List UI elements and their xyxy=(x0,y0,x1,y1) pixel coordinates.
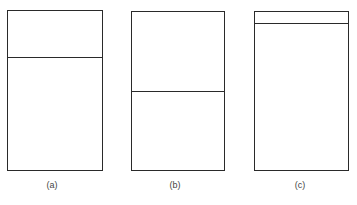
panel-c-divider xyxy=(255,23,348,24)
panel-b xyxy=(131,11,225,171)
panel-c xyxy=(254,11,349,171)
panel-a-label: (a) xyxy=(37,180,67,190)
panel-a-divider xyxy=(8,57,102,58)
panel-b-divider xyxy=(132,91,224,92)
panel-b-label: (b) xyxy=(160,180,190,190)
panel-a xyxy=(7,10,103,171)
panel-c-label: (c) xyxy=(285,180,315,190)
